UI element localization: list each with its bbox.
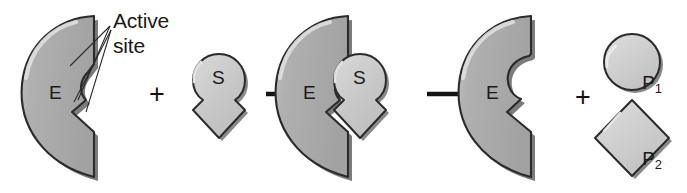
product-1-subscript: 1 xyxy=(655,81,662,96)
operator-plus-products: + xyxy=(575,82,591,113)
substrate-2-label: S xyxy=(353,67,366,89)
operator-plus-reactants: + xyxy=(149,79,165,110)
product-2-label: P2 xyxy=(621,126,662,193)
product-2-letter: P xyxy=(642,148,655,169)
product-1-letter: P xyxy=(642,72,655,93)
enzyme-reaction-figure: Active site E + S E S E + P1 P2 xyxy=(0,0,687,193)
enzyme-1-label: E xyxy=(49,82,62,104)
active-site-annotation-line2: site xyxy=(113,33,145,58)
product-1-label: P1 xyxy=(621,50,662,118)
active-site-annotation-line1: Active xyxy=(113,8,169,33)
product-2-subscript: 2 xyxy=(655,157,662,172)
enzyme-3-label: E xyxy=(486,82,499,104)
substrate-1-label: S xyxy=(212,67,225,89)
enzyme-2-label: E xyxy=(303,82,316,104)
